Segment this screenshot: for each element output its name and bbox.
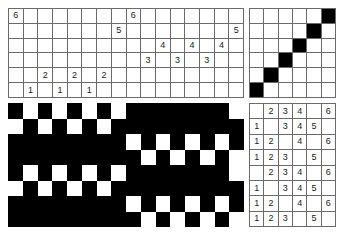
tie-up-cell-r2-c1[interactable] bbox=[250, 24, 264, 39]
threading-cell-r4-c14[interactable]: 3 bbox=[200, 53, 215, 68]
treadling-cell-r5-c6[interactable]: 6 bbox=[322, 166, 336, 181]
tie-up-cell-r6-c3[interactable] bbox=[279, 83, 293, 98]
threading-cell-r5-c13[interactable] bbox=[185, 68, 200, 83]
tie-up-cell-r5-c4[interactable] bbox=[293, 68, 307, 83]
treadling-cell-r5-c4[interactable]: 4 bbox=[293, 166, 307, 181]
threading-cell-r3-c2[interactable] bbox=[24, 39, 39, 54]
tie-up-cell-r1-c5[interactable] bbox=[307, 9, 321, 24]
threading-cell-r4-c10[interactable]: 3 bbox=[141, 53, 156, 68]
threading-draft-block[interactable]: 6655444333222111 bbox=[8, 8, 244, 98]
tie-up-cell-r2-c2[interactable] bbox=[264, 24, 278, 39]
threading-cell-r5-c7[interactable]: 2 bbox=[97, 68, 112, 83]
treadling-cell-r6-c6[interactable] bbox=[322, 181, 336, 196]
treadling-cell-r7-c4[interactable]: 4 bbox=[293, 196, 307, 211]
threading-cell-r4-c13[interactable] bbox=[185, 53, 200, 68]
threading-cell-r6-c11[interactable] bbox=[156, 83, 171, 98]
treadling-cell-r4-c6[interactable] bbox=[322, 150, 336, 165]
threading-cell-r3-c5[interactable] bbox=[68, 39, 83, 54]
threading-cell-r1-c12[interactable] bbox=[171, 9, 186, 24]
threading-cell-r6-c1[interactable] bbox=[9, 83, 24, 98]
threading-cell-r3-c11[interactable]: 4 bbox=[156, 39, 171, 54]
tie-up-cell-r2-c3[interactable] bbox=[279, 24, 293, 39]
tie-up-cell-r3-c4[interactable] bbox=[293, 39, 307, 54]
tie-up-cell-r3-c2[interactable] bbox=[264, 39, 278, 54]
threading-cell-r5-c4[interactable] bbox=[53, 68, 68, 83]
treadling-cell-r7-c3[interactable] bbox=[279, 196, 293, 211]
treadling-cell-r7-c6[interactable]: 6 bbox=[322, 196, 336, 211]
threading-cell-r6-c3[interactable] bbox=[38, 83, 53, 98]
threading-cell-r3-c6[interactable] bbox=[82, 39, 97, 54]
tie-up-cell-r3-c5[interactable] bbox=[307, 39, 321, 54]
threading-cell-r6-c8[interactable] bbox=[112, 83, 127, 98]
treadling-cell-r7-c5[interactable] bbox=[307, 196, 321, 211]
treadling-cell-r5-c1[interactable] bbox=[250, 166, 264, 181]
threading-cell-r1-c3[interactable] bbox=[38, 9, 53, 24]
tie-up-cell-r4-c1[interactable] bbox=[250, 53, 264, 68]
threading-cell-r6-c16[interactable] bbox=[229, 83, 244, 98]
threading-cell-r2-c14[interactable] bbox=[200, 24, 215, 39]
threading-cell-r1-c16[interactable] bbox=[229, 9, 244, 24]
tie-up-cell-r4-c5[interactable] bbox=[307, 53, 321, 68]
threading-cell-r6-c7[interactable] bbox=[97, 83, 112, 98]
treadling-cell-r1-c6[interactable]: 6 bbox=[322, 104, 336, 119]
threading-cell-r5-c14[interactable] bbox=[200, 68, 215, 83]
treadling-cell-r3-c2[interactable]: 2 bbox=[264, 135, 278, 150]
threading-cell-r2-c10[interactable] bbox=[141, 24, 156, 39]
treadling-cell-r7-c1[interactable]: 1 bbox=[250, 196, 264, 211]
threading-cell-r2-c5[interactable] bbox=[68, 24, 83, 39]
treadling-draft-block[interactable]: 23461345124612352346134512461235 bbox=[249, 103, 336, 227]
threading-cell-r1-c11[interactable] bbox=[156, 9, 171, 24]
treadling-cell-r3-c4[interactable]: 4 bbox=[293, 135, 307, 150]
threading-cell-r4-c6[interactable] bbox=[82, 53, 97, 68]
treadling-cell-r4-c2[interactable]: 2 bbox=[264, 150, 278, 165]
threading-cell-r4-c4[interactable] bbox=[53, 53, 68, 68]
threading-cell-r1-c5[interactable] bbox=[68, 9, 83, 24]
threading-cell-r3-c10[interactable] bbox=[141, 39, 156, 54]
treadling-cell-r2-c5[interactable]: 5 bbox=[307, 119, 321, 134]
treadling-cell-r5-c3[interactable]: 3 bbox=[279, 166, 293, 181]
threading-cell-r3-c8[interactable] bbox=[112, 39, 127, 54]
threading-cell-r1-c7[interactable] bbox=[97, 9, 112, 24]
threading-cell-r4-c3[interactable] bbox=[38, 53, 53, 68]
tie-up-cell-r4-c3[interactable] bbox=[279, 53, 293, 68]
treadling-cell-r8-c6[interactable] bbox=[322, 212, 336, 227]
tie-up-cell-r1-c1[interactable] bbox=[250, 9, 264, 24]
tie-up-cell-r4-c4[interactable] bbox=[293, 53, 307, 68]
treadling-cell-r3-c1[interactable]: 1 bbox=[250, 135, 264, 150]
threading-cell-r6-c12[interactable] bbox=[171, 83, 186, 98]
threading-cell-r3-c7[interactable] bbox=[97, 39, 112, 54]
threading-cell-r1-c2[interactable] bbox=[24, 9, 39, 24]
threading-cell-r3-c13[interactable]: 4 bbox=[185, 39, 200, 54]
tie-up-cell-r6-c5[interactable] bbox=[307, 83, 321, 98]
treadling-cell-r2-c6[interactable] bbox=[322, 119, 336, 134]
tie-up-block[interactable] bbox=[249, 8, 336, 98]
threading-cell-r3-c16[interactable] bbox=[229, 39, 244, 54]
treadling-cell-r3-c5[interactable] bbox=[307, 135, 321, 150]
treadling-cell-r1-c4[interactable]: 4 bbox=[293, 104, 307, 119]
treadling-cell-r6-c4[interactable]: 4 bbox=[293, 181, 307, 196]
threading-cell-r3-c12[interactable] bbox=[171, 39, 186, 54]
tie-up-cell-r4-c6[interactable] bbox=[322, 53, 336, 68]
threading-cell-r4-c5[interactable] bbox=[68, 53, 83, 68]
tie-up-cell-r3-c1[interactable] bbox=[250, 39, 264, 54]
treadling-cell-r7-c2[interactable]: 2 bbox=[264, 196, 278, 211]
threading-cell-r1-c13[interactable] bbox=[185, 9, 200, 24]
threading-cell-r2-c15[interactable] bbox=[215, 24, 230, 39]
threading-cell-r5-c11[interactable] bbox=[156, 68, 171, 83]
threading-cell-r1-c1[interactable]: 6 bbox=[9, 9, 24, 24]
threading-cell-r6-c9[interactable] bbox=[127, 83, 142, 98]
threading-cell-r2-c1[interactable] bbox=[9, 24, 24, 39]
treadling-cell-r6-c1[interactable]: 1 bbox=[250, 181, 264, 196]
threading-cell-r2-c16[interactable]: 5 bbox=[229, 24, 244, 39]
threading-cell-r4-c11[interactable] bbox=[156, 53, 171, 68]
threading-cell-r2-c3[interactable] bbox=[38, 24, 53, 39]
tie-up-cell-r5-c3[interactable] bbox=[279, 68, 293, 83]
threading-cell-r3-c4[interactable] bbox=[53, 39, 68, 54]
threading-cell-r4-c8[interactable] bbox=[112, 53, 127, 68]
threading-cell-r1-c10[interactable] bbox=[141, 9, 156, 24]
treadling-cell-r8-c3[interactable]: 3 bbox=[279, 212, 293, 227]
threading-cell-r6-c10[interactable] bbox=[141, 83, 156, 98]
threading-cell-r2-c13[interactable] bbox=[185, 24, 200, 39]
threading-cell-r1-c6[interactable] bbox=[82, 9, 97, 24]
threading-cell-r2-c2[interactable] bbox=[24, 24, 39, 39]
